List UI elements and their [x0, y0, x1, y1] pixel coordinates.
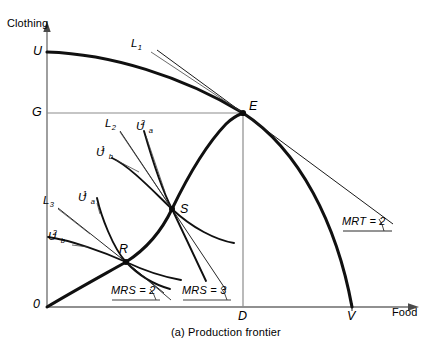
price-line-label-L1-sub: 1 [138, 43, 142, 52]
indifference-label-Ub1-sup: 1 [101, 144, 105, 153]
production-frontier-diagram [0, 0, 439, 350]
price-line-label-L2-sub: 2 [112, 123, 116, 132]
rate-label-mrs-S: MRS = 3 [182, 285, 227, 296]
price-line-label-L1: L1 [131, 38, 142, 50]
indifference-label-Ua2-sup: 2 [141, 118, 145, 127]
x-axis-title: Food [392, 307, 417, 318]
point-label-R: R [119, 243, 128, 256]
indifference-label-Ub1: U1b [96, 147, 113, 159]
point-label-V: V [347, 310, 355, 323]
figure-panel: Clothing Food 0 U G E S R D V L1 L2 L3 U… [0, 0, 439, 350]
point-label-U: U [33, 45, 42, 58]
point-label-G: G [32, 106, 42, 119]
price-line-L1 [157, 50, 393, 224]
rate-label-mrt-E: MRT = 2 [342, 216, 386, 227]
figure-caption: (a) Production frontier [171, 327, 281, 338]
indifference-label-Ua1-sup: 1 [83, 189, 87, 198]
indifference-label-Ub1-sub: b [109, 152, 113, 161]
price-line-label-L3-base: L [43, 194, 49, 206]
axes-group [43, 21, 419, 311]
point-label-E: E [249, 100, 257, 113]
leader-L2 [120, 132, 172, 209]
indifference-label-Ub2-sup: 2 [53, 228, 57, 237]
origin-label: 0 [33, 298, 40, 311]
point-label-D: D [238, 310, 247, 323]
indifference-label-Ub2: U2b [48, 231, 65, 243]
indifference-label-Ua2-sub: a [149, 126, 153, 135]
indifference-label-Ua2: U2a [136, 121, 153, 133]
point-dot-E [240, 110, 246, 116]
point-label-S: S [180, 203, 188, 216]
price-line-label-L3-sub: 3 [50, 200, 54, 209]
point-dot-R [123, 259, 129, 265]
leader-L1 [151, 52, 243, 113]
rate-label-mrs-R: MRS = 2 [111, 285, 156, 296]
indifference-curve-Ub1 [112, 158, 234, 243]
price-line-label-L1-base: L [131, 37, 137, 49]
y-axis-title: Clothing [7, 18, 48, 29]
price-line-label-L2-base: L [105, 117, 111, 129]
indifference-label-Ub2-sub: b [61, 236, 65, 245]
point-dot-S [169, 206, 175, 212]
leader-Ub1 [116, 160, 139, 172]
price-line-label-L3: L3 [43, 195, 54, 207]
indifference-label-Ua1-sub: a [91, 197, 95, 206]
price-line-label-L2: L2 [105, 118, 116, 130]
leader-lines-group [58, 52, 243, 247]
indifference-label-Ua1: U1a [78, 192, 95, 204]
